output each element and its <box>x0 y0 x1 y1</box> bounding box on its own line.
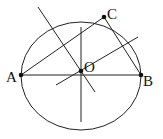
label-b: B <box>143 73 153 89</box>
geometry-diagram: A B C O <box>0 0 163 139</box>
label-o: O <box>84 59 95 75</box>
label-c: C <box>107 6 117 22</box>
point-o <box>79 69 84 74</box>
label-a: A <box>6 69 17 85</box>
point-c <box>102 15 107 20</box>
perp-bisector-bc <box>56 37 138 85</box>
point-a <box>19 73 24 78</box>
